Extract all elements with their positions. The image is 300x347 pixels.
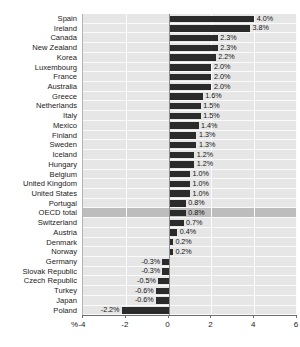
category-label: Portugal [0,199,80,209]
category-label: Finland [0,131,80,141]
chart-row: 3.8% [83,24,296,34]
plot-area: 4.0%3.8%2.3%2.3%2.2%2.0%2.0%2.0%1.6%1.5%… [82,14,296,315]
category-label: Iceland [0,150,80,160]
bar-value-label: 2.0% [214,63,230,72]
bar-value-label: -0.6% [132,296,154,305]
category-label: Denmark [0,238,80,248]
chart-row: 0.7% [83,218,296,228]
category-label: United Kingdom [0,179,80,189]
chart-row: 1.0% [83,189,296,199]
x-axis-tick-label: 6 [294,320,298,329]
chart-row: 0.8% [83,208,296,218]
bar [169,113,201,119]
category-label: Norway [0,247,80,257]
x-axis-tick-label: 2 [208,320,212,329]
category-label: Belgium [0,170,80,180]
bar [169,171,190,177]
chart-row: 2.0% [83,63,296,73]
x-axis-tick [82,315,83,318]
bar [156,297,169,303]
bar-value-label: 4.0% [257,15,273,24]
category-label: Germany [0,257,80,267]
bar [169,132,197,138]
chart-row: 2.3% [83,43,296,53]
category-label: France [0,72,80,82]
category-label: New Zealand [0,43,80,53]
x-axis-tick [125,315,126,318]
chart-row: 2.2% [83,53,296,63]
bar [169,74,212,80]
chart-row: 1.3% [83,131,296,141]
x-axis-unit-label: % [60,320,78,329]
chart-row: 0.2% [83,247,296,257]
bar [156,288,169,294]
chart-row: 0.2% [83,238,296,248]
category-label: Slovak Republic [0,267,80,277]
bar-value-label: -0.3% [138,267,160,276]
bar-value-label: -0.3% [138,258,160,267]
bar [169,84,212,90]
category-label: Canada [0,33,80,43]
x-axis-tick [210,315,211,318]
category-label: Greece [0,92,80,102]
chart-row: 4.0% [83,14,296,24]
chart-row: 1.2% [83,150,296,160]
category-label: Switzerland [0,218,80,228]
chart-row: -2.2% [83,306,296,316]
bar [169,220,184,226]
category-label-column: SpainIrelandCanadaNew ZealandKoreaLuxemb… [0,14,80,315]
bar-value-label: -0.6% [132,287,154,296]
category-label: Czech Republic [0,276,80,286]
category-label: Korea [0,53,80,63]
category-label: Luxembourg [0,63,80,73]
chart-row: -0.3% [83,257,296,267]
x-axis-tick-label: 4 [251,320,255,329]
category-label: Ireland [0,24,80,34]
chart-row: 1.5% [83,111,296,121]
bar [169,181,190,187]
bar [169,25,250,31]
bar [169,161,195,167]
bar-value-label: 2.0% [214,73,230,82]
bar-value-label: 1.0% [193,180,209,189]
chart-row: 1.6% [83,92,296,102]
category-label: Italy [0,111,80,121]
bar-value-label: -0.5% [134,277,156,286]
chart-row: 2.0% [83,72,296,82]
category-label: Austria [0,228,80,238]
chart-row: -0.5% [83,276,296,286]
bar [169,249,173,255]
bar [169,229,178,235]
bar-value-label: 0.7% [186,219,202,228]
bar [162,268,168,274]
chart-row: 1.2% [83,160,296,170]
bar [169,35,218,41]
x-axis-tick-label: -4 [78,320,85,329]
x-axis-tick [168,315,169,318]
bar [158,278,169,284]
bar-value-label: 1.5% [203,102,219,111]
bar-value-label: 2.3% [220,34,236,43]
chart-row: -0.6% [83,286,296,296]
bar-value-label: 2.3% [220,44,236,53]
chart-row: 1.3% [83,140,296,150]
bar-value-label: 1.2% [197,160,213,169]
bar-value-label: 2.2% [218,53,234,62]
bar [169,16,255,22]
bar [169,54,216,60]
bar [169,200,186,206]
category-label: Turkey [0,286,80,296]
chart-row: 1.0% [83,179,296,189]
category-label: Poland [0,306,80,316]
chart-row: 1.0% [83,170,296,180]
bar [169,152,195,158]
bar-value-label: -2.2% [98,306,120,315]
bar-value-label: 1.4% [201,122,217,131]
chart-container: 1995-2005 SpainIrelandCanadaNew ZealandK… [0,0,300,347]
x-axis-tick-label: -2 [121,320,128,329]
bar [169,103,201,109]
category-label: Australia [0,82,80,92]
bar-value-label: 0.8% [188,199,204,208]
bar [169,122,199,128]
x-axis-tick-label: 0 [165,320,169,329]
